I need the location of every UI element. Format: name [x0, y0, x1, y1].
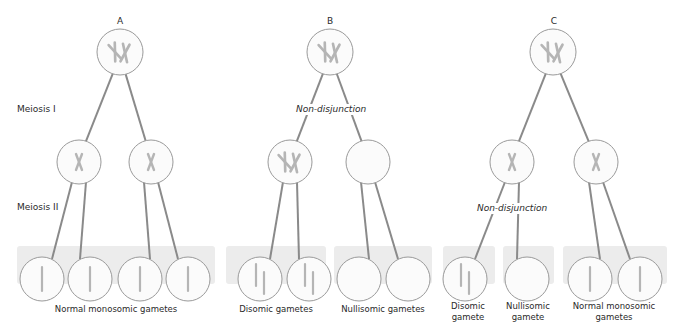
- nondisjunction-diagram: A B C Meiosis I Meiosis II Non-disjuncti…: [0, 0, 679, 330]
- meiosis-1-daughter-cell-a: [57, 140, 101, 184]
- gamete-cell-b: [337, 257, 381, 301]
- cell-membrane: [386, 257, 430, 301]
- parent-cell-b: [307, 29, 353, 75]
- meiosis-1-daughter-cell-b: [346, 140, 390, 184]
- gamete-cell-b: [386, 257, 430, 301]
- cell-membrane: [238, 257, 282, 301]
- meiosis-1-daughter-cell-c: [574, 140, 618, 184]
- gamete-label-a-normal: Normal monosomic gametes: [55, 304, 177, 315]
- panel-label-c: C: [551, 16, 557, 27]
- parent-cell-c: [530, 29, 576, 75]
- row-label-meiosis-2: Meiosis II: [17, 202, 58, 213]
- non-disjunction-label-c: Non-disjunction: [475, 203, 549, 214]
- row-label-meiosis-1: Meiosis I: [17, 104, 56, 115]
- non-disjunction-label-b: Non-disjunction: [294, 104, 368, 115]
- cell-membrane: [530, 29, 576, 75]
- cell-membrane: [505, 257, 549, 301]
- gamete-cell-a: [20, 257, 64, 301]
- meiosis-1-line-a: [86, 74, 113, 142]
- gamete-label-b-nullisomic: Nullisomic gametes: [341, 304, 425, 315]
- panel-label-b: B: [327, 16, 333, 27]
- gamete-label-c-normal-line1: Normal monosomic: [573, 301, 655, 312]
- panel-label-a: A: [117, 16, 123, 27]
- gamete-label-c-normal-line2: gametes: [573, 312, 655, 323]
- gamete-cell-a: [68, 257, 112, 301]
- gamete-label-c-nullisomic: Nullisomic gamete: [506, 301, 550, 322]
- meiosis-1-daughter-cell-a: [129, 140, 173, 184]
- meiosis-1-line-c: [561, 73, 589, 141]
- gamete-cell-a: [166, 257, 210, 301]
- gamete-cell-c: [505, 257, 549, 301]
- meiosis-1-daughter-cell-c: [490, 140, 534, 184]
- gamete-label-b-disomic: Disomic gametes: [239, 304, 313, 315]
- meiosis-1-line-a: [126, 74, 146, 141]
- gamete-label-c-normal: Normal monosomic gametes: [573, 301, 655, 322]
- cell-membrane: [346, 140, 390, 184]
- cell-membrane: [268, 140, 312, 184]
- cell-membrane: [97, 29, 143, 75]
- cell-membrane: [443, 257, 487, 301]
- cell-membrane: [337, 257, 381, 301]
- cell-membrane: [307, 29, 353, 75]
- gamete-label-c-disomic-line2: gamete: [451, 312, 485, 323]
- gamete-cell-c: [568, 257, 612, 301]
- gamete-cell-b: [238, 257, 282, 301]
- gamete-label-c-nullisomic-line2: gamete: [506, 312, 550, 323]
- gamete-cell-a: [118, 257, 162, 301]
- gamete-label-c-disomic-line1: Disomic: [451, 301, 485, 312]
- gamete-cell-c: [443, 257, 487, 301]
- gamete-label-c-nullisomic-line1: Nullisomic: [506, 301, 550, 312]
- parent-cell-a: [97, 29, 143, 75]
- meiosis-1-line-c: [519, 74, 546, 142]
- cell-membrane: [287, 257, 331, 301]
- gamete-cell-b: [287, 257, 331, 301]
- gamete-label-c-disomic: Disomic gamete: [451, 301, 485, 322]
- meiosis-1-daughter-cell-b: [268, 140, 312, 184]
- diagram-canvas: [0, 0, 679, 330]
- gamete-cell-c: [618, 257, 662, 301]
